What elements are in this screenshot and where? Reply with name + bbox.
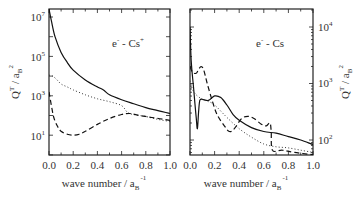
- left-panel-e-cs-plus: 107 105 103 101 0.0 0.2 0.4 0.6 0.8 1.0 …: [7, 9, 177, 192]
- left-x-tick: 1.0: [163, 159, 177, 171]
- right-x-axis-label: wave number / aB-1: [204, 174, 289, 192]
- left-x-tick: 0.0: [42, 159, 56, 171]
- right-y-axis-label: QT / aB2: [337, 65, 354, 99]
- right-x-tick: 0.8: [282, 159, 296, 171]
- right-y-tick-labels: 104 103 102: [318, 20, 333, 146]
- right-x-tick: 0.6: [257, 159, 271, 171]
- right-curves: [190, 27, 313, 155]
- figure: 107 105 103 101 0.0 0.2 0.4 0.6 0.8 1.0 …: [0, 0, 360, 198]
- left-y-tick-1e5: 105: [31, 50, 46, 63]
- right-panel-annotation: e- - Cs: [256, 36, 284, 49]
- right-axis-ticks: [190, 9, 313, 155]
- left-axis-ticks: [49, 9, 170, 155]
- left-curves: [49, 9, 170, 135]
- right-y-tick-1e3: 103: [318, 76, 333, 89]
- left-panel-annotation: e- - Cs+: [112, 36, 144, 49]
- right-plot-frame: [190, 9, 313, 155]
- left-x-tick: 0.2: [66, 159, 80, 171]
- left-y-axis-label: QT / aB2: [7, 65, 24, 99]
- right-y-tick-1e2: 102: [318, 133, 333, 146]
- left-y-tick-labels: 107 105 103 101: [31, 10, 46, 142]
- left-y-tick-1e1: 101: [31, 129, 46, 142]
- solid-curve: [49, 9, 170, 113]
- right-y-tick-1e4: 104: [318, 20, 333, 33]
- right-x-tick: 0.2: [208, 159, 222, 171]
- left-plot-frame: [49, 9, 170, 155]
- left-y-tick-1e7: 107: [31, 10, 46, 23]
- left-x-tick: 0.8: [139, 159, 153, 171]
- right-x-tick: 0.4: [232, 159, 246, 171]
- dashed-curve: [49, 92, 170, 135]
- right-panel-e-cs: 104 103 102 0.0 0.2 0.4 0.6 0.8 1.0 wave…: [183, 9, 354, 192]
- solid-curve: [190, 27, 313, 145]
- left-x-tick: 0.6: [115, 159, 129, 171]
- right-x-tick-labels: 0.0 0.2 0.4 0.6 0.8 1.0: [183, 159, 320, 171]
- dotted-curve: [190, 81, 313, 153]
- left-x-tick-labels: 0.0 0.2 0.4 0.6 0.8 1.0: [42, 159, 177, 171]
- right-x-tick: 1.0: [306, 159, 320, 171]
- left-x-axis-label: wave number / aB-1: [62, 174, 147, 192]
- left-x-tick: 0.4: [91, 159, 105, 171]
- dotted-curve: [49, 75, 170, 121]
- dashed-curve: [190, 67, 313, 155]
- right-x-tick: 0.0: [183, 159, 197, 171]
- left-y-tick-1e3: 103: [31, 89, 46, 102]
